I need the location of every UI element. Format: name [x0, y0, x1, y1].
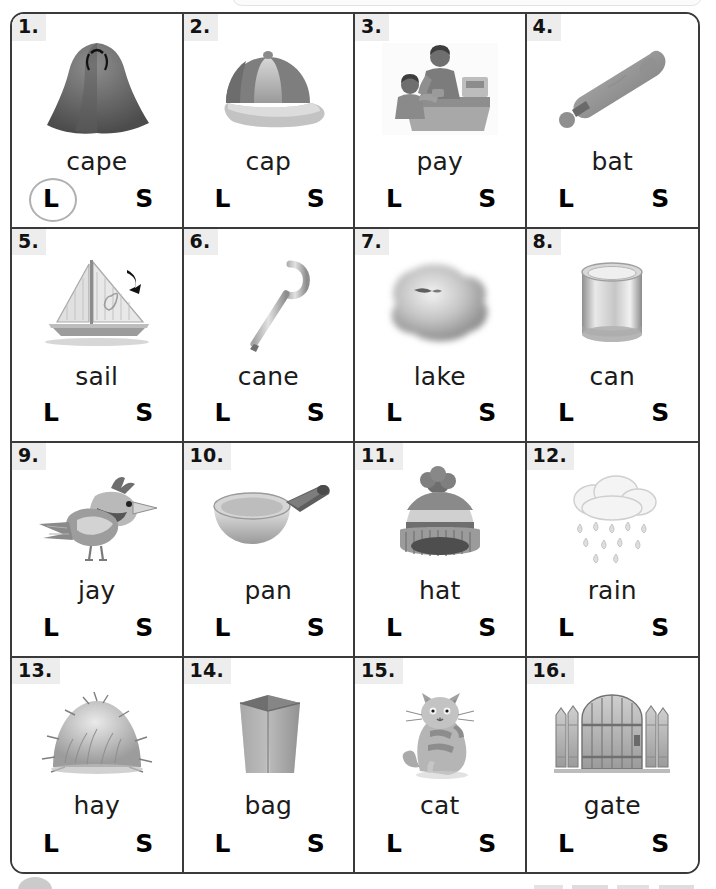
vowel-choice-row: LS	[355, 397, 525, 431]
long-vowel-choice[interactable]: L	[31, 183, 71, 215]
vowel-choice-row: LS	[527, 183, 699, 217]
vowel-choice-row: LS	[184, 828, 354, 862]
pan-icon	[184, 463, 354, 573]
item-word-label: rain	[527, 576, 699, 605]
short-vowel-choice[interactable]: S	[124, 397, 164, 429]
vowel-choice-row: LS	[12, 183, 182, 217]
can-icon	[527, 249, 699, 359]
vowel-choice-row: LS	[527, 397, 699, 431]
worksheet-page: 1. capeLS2. capLS3. payLS4.	[0, 0, 716, 889]
sailboat-icon	[12, 249, 182, 359]
item-word-label: bat	[527, 147, 699, 176]
worksheet-item-cell: 15. catLS	[355, 658, 527, 873]
item-word-label: cape	[12, 147, 182, 176]
vowel-choice-row: LS	[12, 612, 182, 646]
item-word-label: hay	[12, 791, 182, 820]
lake-icon	[355, 249, 525, 359]
cape-icon	[12, 34, 182, 144]
long-vowel-choice[interactable]: L	[546, 397, 586, 429]
short-vowel-choice[interactable]: S	[640, 183, 680, 215]
item-word-label: cap	[184, 147, 354, 176]
short-vowel-choice[interactable]: S	[124, 183, 164, 215]
bottom-text-artifact	[534, 885, 694, 889]
top-cropped-band-artifact	[232, 0, 702, 6]
long-vowel-choice[interactable]: L	[374, 828, 414, 860]
worksheet-item-cell: 7. lakeLS	[355, 229, 527, 444]
long-vowel-choice[interactable]: L	[374, 612, 414, 644]
cat-icon	[355, 678, 525, 788]
short-vowel-choice[interactable]: S	[467, 828, 507, 860]
long-vowel-choice[interactable]: L	[31, 828, 71, 860]
vowel-choice-row: LS	[355, 828, 525, 862]
worksheet-item-cell: 9. jayLS	[12, 443, 184, 658]
long-vowel-choice[interactable]: L	[31, 397, 71, 429]
vowel-choice-row: LS	[527, 612, 699, 646]
long-vowel-choice[interactable]: L	[202, 828, 242, 860]
paper-bag-icon	[184, 678, 354, 788]
long-vowel-choice[interactable]: L	[374, 183, 414, 215]
worksheet-item-cell: 14. bagLS	[184, 658, 356, 873]
long-vowel-choice[interactable]: L	[546, 183, 586, 215]
long-vowel-choice[interactable]: L	[546, 828, 586, 860]
vowel-choice-row: LS	[527, 828, 699, 862]
short-vowel-choice[interactable]: S	[467, 183, 507, 215]
short-vowel-choice[interactable]: S	[467, 612, 507, 644]
bat-icon	[527, 34, 699, 144]
worksheet-item-cell: 11. hatLS	[355, 443, 527, 658]
worksheet-item-cell: 5. sailLS	[12, 229, 184, 444]
short-vowel-choice[interactable]: S	[467, 397, 507, 429]
worksheet-item-cell: 16. gateLS	[527, 658, 699, 873]
jay-bird-icon	[12, 463, 182, 573]
vowel-choice-row: LS	[355, 183, 525, 217]
long-vowel-choice[interactable]: L	[374, 397, 414, 429]
long-vowel-choice[interactable]: L	[546, 612, 586, 644]
bottom-circle-artifact	[18, 877, 52, 889]
worksheet-item-cell: 3. payLS	[355, 14, 527, 229]
short-vowel-choice[interactable]: S	[124, 828, 164, 860]
worksheet-item-cell: 4. batLS	[527, 14, 699, 229]
vowel-choice-row: LS	[355, 612, 525, 646]
item-word-label: lake	[355, 362, 525, 391]
vowel-choice-row: LS	[12, 397, 182, 431]
vowel-choice-row: LS	[184, 612, 354, 646]
long-vowel-choice[interactable]: L	[202, 397, 242, 429]
worksheet-item-cell: 12. rainLS	[527, 443, 699, 658]
rain-cloud-icon	[527, 463, 699, 573]
worksheet-item-cell: 2. capLS	[184, 14, 356, 229]
short-vowel-choice[interactable]: S	[296, 828, 336, 860]
haystack-icon	[12, 678, 182, 788]
vowel-choice-row: LS	[184, 397, 354, 431]
winter-hat-icon	[355, 463, 525, 573]
item-word-label: pan	[184, 576, 354, 605]
item-word-label: cat	[355, 791, 525, 820]
item-word-label: can	[527, 362, 699, 391]
cap-icon	[184, 34, 354, 144]
short-vowel-choice[interactable]: S	[296, 183, 336, 215]
short-vowel-choice[interactable]: S	[640, 397, 680, 429]
short-vowel-choice[interactable]: S	[296, 612, 336, 644]
worksheet-item-cell: 8. canLS	[527, 229, 699, 444]
worksheet-item-cell: 1. capeLS	[12, 14, 184, 229]
long-vowel-choice[interactable]: L	[202, 183, 242, 215]
short-vowel-choice[interactable]: S	[640, 828, 680, 860]
item-word-label: pay	[355, 147, 525, 176]
vowel-choice-row: LS	[184, 183, 354, 217]
item-word-label: bag	[184, 791, 354, 820]
gate-icon	[527, 678, 699, 788]
worksheet-grid: 1. capeLS2. capLS3. payLS4.	[10, 12, 700, 874]
short-vowel-choice[interactable]: S	[296, 397, 336, 429]
pay-icon	[355, 34, 525, 144]
long-vowel-choice[interactable]: L	[202, 612, 242, 644]
short-vowel-choice[interactable]: S	[640, 612, 680, 644]
long-vowel-choice[interactable]: L	[31, 612, 71, 644]
worksheet-item-cell: 13. hayLS	[12, 658, 184, 873]
item-word-label: gate	[527, 791, 699, 820]
item-word-label: cane	[184, 362, 354, 391]
short-vowel-choice[interactable]: S	[124, 612, 164, 644]
item-word-label: sail	[12, 362, 182, 391]
item-word-label: jay	[12, 576, 182, 605]
cane-icon	[184, 249, 354, 359]
worksheet-item-cell: 6. caneLS	[184, 229, 356, 444]
worksheet-item-cell: 10. panLS	[184, 443, 356, 658]
vowel-choice-row: LS	[12, 828, 182, 862]
